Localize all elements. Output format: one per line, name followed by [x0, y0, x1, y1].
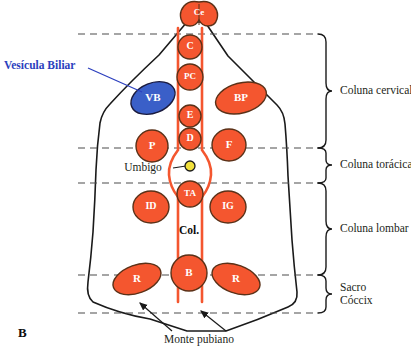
organ-marker-vb-label: VB — [145, 91, 161, 103]
bracket-label-sacro: Sacro — [340, 281, 366, 293]
organ-marker-ig-label: IG — [222, 200, 234, 211]
organ-marker-ta-label: TA — [184, 188, 196, 198]
organ-marker-r-left-label: R — [133, 272, 142, 284]
bracket-sacrum-coccyx — [318, 275, 332, 313]
organ-marker-ce-label: Ce — [194, 7, 205, 17]
pubic-mound-callout-label: Monte pubiano — [164, 333, 234, 346]
organ-marker-p-label: P — [149, 139, 156, 151]
organ-marker-e-label: E — [187, 109, 194, 120]
bracket-thoracic — [318, 148, 332, 183]
spinal-region-brackets-group — [318, 34, 332, 313]
gallbladder-callout-group: Vesícula Biliar — [4, 59, 142, 92]
navel-dot-icon — [185, 161, 195, 171]
bracket-label-coccix: Cóccix — [340, 294, 373, 306]
bracket-cervical — [318, 34, 332, 148]
organ-marker-r-right-label: R — [232, 272, 241, 284]
bracket-label-coluna-lombar: Coluna lombar — [340, 222, 409, 234]
organ-marker-d-label: D — [186, 132, 193, 143]
reflexology-abdomen-diagram: Ce C PC E D VB BP P F — [0, 0, 411, 348]
organ-marker-id-label: ID — [145, 200, 156, 211]
spine-column-label: Col. — [179, 224, 199, 236]
organ-marker-pc-label: PC — [184, 71, 196, 81]
organ-marker-bp-label: BP — [234, 91, 248, 103]
anatomical-figure-panel: Ce C PC E D VB BP P F — [0, 0, 411, 348]
navel-callout-label: Umbigo — [124, 161, 162, 174]
gallbladder-callout-label: Vesícula Biliar — [4, 59, 75, 71]
organ-marker-f-label: F — [226, 138, 233, 150]
organ-marker-b-label: B — [185, 266, 193, 278]
bracket-label-coluna-cervical: Coluna cervical — [340, 84, 411, 96]
spinal-region-labels-group: Coluna cervical Coluna torácica Coluna l… — [340, 84, 411, 306]
panel-letter-label: B — [18, 325, 27, 340]
bracket-lumbar — [318, 183, 332, 275]
organ-marker-c-label: C — [186, 40, 193, 51]
bracket-label-coluna-toracica: Coluna torácica — [340, 158, 411, 170]
